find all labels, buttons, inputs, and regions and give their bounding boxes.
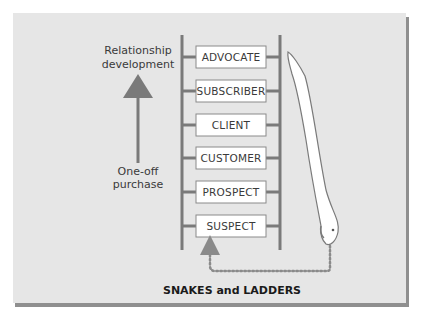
rung-label: ADVOCATE (202, 51, 261, 63)
ladder-rung-customer: CUSTOMER (182, 147, 280, 169)
ladder-rung-subscriber: SUBSCRIBER (182, 80, 280, 102)
top-label-line1: Relationship (104, 44, 172, 57)
rung-label: SUBSCRIBER (197, 85, 266, 97)
figure-caption: SNAKES and LADDERS (163, 284, 301, 297)
rung-label: CLIENT (212, 119, 251, 131)
ladder-rung-advocate: ADVOCATE (182, 46, 280, 68)
bottom-label-line1: One-off (118, 165, 159, 178)
snake-eye-icon (332, 229, 335, 232)
ladder-rung-suspect: SUSPECT (182, 215, 280, 237)
snakes-and-ladders-diagram: Relationship development One-off purchas… (0, 0, 442, 316)
bottom-label-line2: purchase (113, 178, 164, 191)
ladder-rung-client: CLIENT (182, 114, 280, 136)
top-label-line2: development (102, 58, 175, 71)
ladder-rung-prospect: PROSPECT (182, 181, 280, 203)
rung-label: PROSPECT (203, 186, 260, 198)
rung-label: SUSPECT (206, 220, 256, 232)
snake-return-path (210, 245, 330, 271)
snake-icon (288, 52, 339, 245)
rung-label: CUSTOMER (201, 152, 262, 164)
